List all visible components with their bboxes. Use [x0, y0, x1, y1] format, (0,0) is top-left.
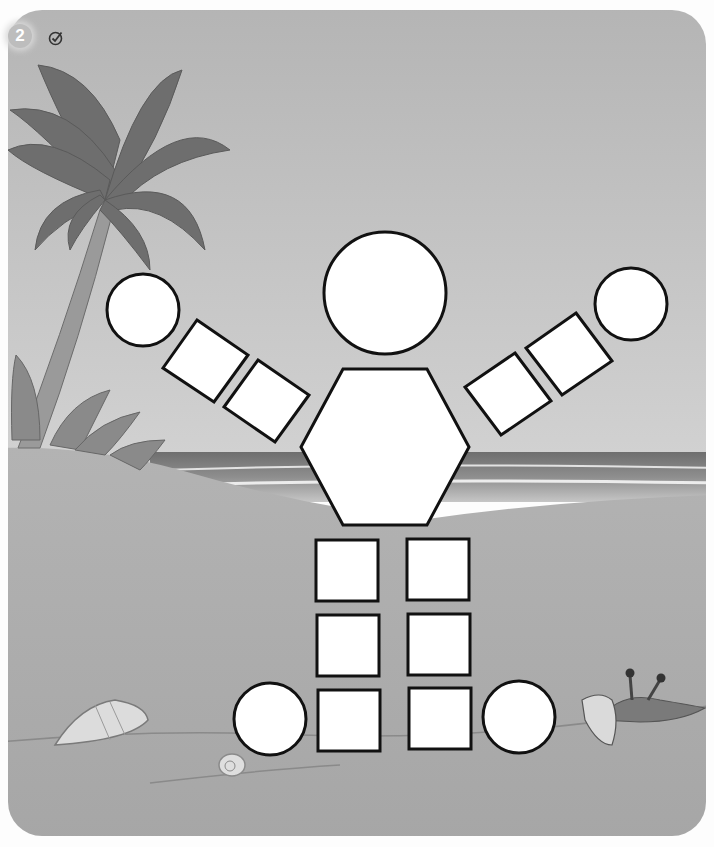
left-leg-square-1[interactable] [316, 540, 378, 601]
head-circle[interactable] [324, 232, 446, 354]
right-foot-circle[interactable] [483, 681, 555, 753]
right-leg-square-1[interactable] [407, 539, 469, 600]
left-leg-square-3[interactable] [318, 690, 380, 751]
checkmark-pencil-icon [48, 30, 64, 46]
left-foot-circle[interactable] [234, 683, 306, 755]
right-leg-square-3[interactable] [409, 688, 471, 749]
exercise-number-badge: 2 [8, 24, 32, 48]
snail-shell [219, 754, 245, 776]
left-leg-square-2[interactable] [317, 615, 379, 676]
right-leg-square-2[interactable] [408, 614, 470, 675]
right-hand-circle[interactable] [595, 268, 667, 340]
worksheet-page: 2 [0, 0, 714, 847]
beach-scene [0, 0, 714, 847]
left-hand-circle[interactable] [107, 274, 179, 346]
